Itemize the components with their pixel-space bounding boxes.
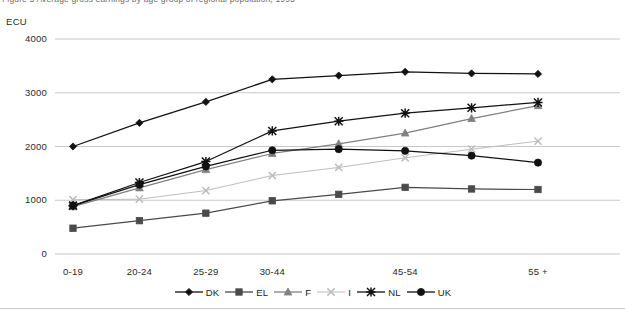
data-point-marker (136, 181, 143, 188)
data-point-marker (269, 76, 276, 83)
data-point-marker (468, 186, 474, 192)
data-point-marker (336, 191, 342, 197)
x-tick-label: 25-29 (193, 266, 218, 277)
line-chart-plot (0, 0, 625, 310)
legend-marker-triangle-icon (273, 286, 303, 298)
legend-item-dk[interactable]: DK (172, 286, 222, 298)
x-tick-label: 0-19 (63, 266, 83, 277)
data-point-marker (136, 119, 143, 126)
data-point-marker (269, 147, 276, 154)
data-point-marker (334, 117, 343, 126)
data-point-marker (269, 198, 275, 204)
data-point-marker (203, 210, 209, 216)
data-point-marker (202, 98, 209, 105)
chart-legend: DKELFINLUK (0, 286, 625, 298)
x-tick-label: 30-44 (260, 266, 285, 277)
data-point-marker (402, 147, 409, 154)
data-point-marker (335, 146, 342, 153)
data-point-marker (417, 288, 424, 295)
y-tick-label: 3000 (3, 87, 47, 98)
x-tick-label: 45-54 (392, 266, 417, 277)
data-point-marker (70, 225, 76, 231)
legend-label: UK (437, 287, 452, 298)
data-point-marker (335, 72, 342, 79)
legend-item-el[interactable]: EL (222, 286, 270, 298)
x-tick-label: 20-24 (127, 266, 152, 277)
data-point-marker (185, 288, 192, 295)
legend-item-f[interactable]: F (271, 286, 313, 298)
data-point-marker (468, 70, 475, 77)
legend-marker-circle-icon (406, 286, 436, 298)
data-point-marker (467, 103, 476, 112)
legend-label: NL (387, 287, 401, 298)
data-point-marker (534, 70, 541, 77)
legend-item-i[interactable]: I (314, 286, 353, 298)
data-point-marker (535, 186, 541, 192)
data-point-marker (401, 109, 410, 118)
legend-item-nl[interactable]: NL (354, 286, 403, 298)
data-point-marker (236, 289, 242, 295)
y-tick-label: 0 (3, 248, 47, 259)
legend-label: DK (205, 287, 220, 298)
legend-marker-cross-icon (316, 286, 346, 298)
data-point-marker (69, 143, 76, 150)
data-point-marker (533, 98, 542, 107)
data-point-marker (136, 217, 142, 223)
x-tick-label: 55 + (528, 266, 548, 277)
legend-marker-square-icon (224, 286, 254, 298)
series-i (69, 138, 541, 204)
data-point-marker (69, 202, 76, 209)
legend-label: EL (255, 287, 268, 298)
data-point-marker (268, 126, 277, 135)
legend-marker-diamond-icon (174, 286, 204, 298)
legend-marker-star-icon (356, 286, 386, 298)
y-tick-label: 4000 (3, 33, 47, 44)
legend-label: I (347, 287, 351, 298)
data-point-marker (367, 287, 376, 296)
data-point-marker (468, 152, 475, 159)
legend-item-uk[interactable]: UK (404, 286, 454, 298)
bottom-divider (0, 308, 625, 309)
data-point-marker (202, 163, 209, 170)
y-tick-label: 2000 (3, 141, 47, 152)
legend-label: F (304, 287, 311, 298)
figure-container: Figure 5 Average gross earnings by age g… (0, 0, 625, 310)
data-point-marker (534, 159, 541, 166)
data-point-marker (402, 184, 408, 190)
data-point-marker (402, 68, 409, 75)
y-tick-label: 1000 (3, 194, 47, 205)
